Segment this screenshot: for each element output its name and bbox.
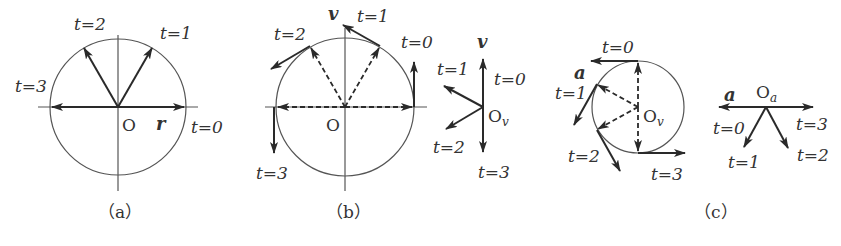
- vector-symbol-a: a: [574, 62, 586, 83]
- label-t0: t=0: [602, 37, 634, 57]
- label-t1: t=1: [437, 59, 469, 79]
- label-t0: t=0: [713, 118, 745, 138]
- origin-ov: Ov: [643, 106, 664, 129]
- origin-ov: Ov: [488, 106, 509, 129]
- origin-oa: Oa: [756, 82, 777, 105]
- origin-label: O: [122, 115, 136, 135]
- panel-a: t=2 t=1 t=3 t=0 O r （a）: [15, 14, 223, 222]
- caption-a: （a）: [98, 202, 142, 222]
- hodograph-figure: t=2 t=1 t=3 t=0 O r （a） v t=1 t=2 t=0 t=…: [0, 0, 841, 246]
- label-t2: t=2: [797, 145, 829, 165]
- label-t2: t=2: [433, 137, 465, 157]
- label-t0: t=0: [191, 117, 223, 137]
- label-t3: t=3: [256, 163, 288, 183]
- origin-label: O: [326, 115, 340, 135]
- vector-symbol-v: v: [477, 31, 488, 52]
- label-t3: t=3: [796, 114, 828, 134]
- panel-c: t=0 a t=1 t=2 t=3 Ov a Oa t=0 t=3 t=1 t=…: [555, 37, 829, 222]
- label-t1: t=1: [160, 23, 192, 43]
- label-t2: t=2: [568, 146, 600, 166]
- label-t2: t=2: [274, 24, 306, 44]
- label-t1: t=1: [555, 83, 587, 103]
- accel-vector-t2: [597, 130, 620, 171]
- hodograph-v-t2: [446, 107, 483, 129]
- label-t1: t=1: [728, 152, 760, 172]
- dashed-v-t2: [598, 107, 638, 129]
- label-t3: t=3: [478, 162, 510, 182]
- panel-b: v t=1 t=2 t=0 t=3 O v t=1 t=0 t=2 t=3 Ov…: [256, 3, 526, 222]
- dashed-radius-t1: [345, 48, 379, 107]
- caption-c: （c）: [694, 202, 738, 222]
- label-t0: t=0: [401, 32, 433, 52]
- velocity-hodograph: v t=1 t=0 t=2 t=3 Ov: [433, 31, 526, 182]
- velocity-vector-t1: [343, 25, 380, 46]
- vector-symbol-r: r: [156, 113, 167, 134]
- label-t2: t=2: [74, 14, 106, 34]
- label-t1: t=1: [357, 6, 389, 26]
- dashed-radius-t2: [311, 48, 345, 107]
- caption-b: （b）: [326, 202, 371, 222]
- label-t0: t=0: [494, 69, 526, 89]
- vector-symbol-a: a: [724, 84, 736, 105]
- position-vector-t2: [84, 48, 118, 107]
- dashed-v-t1: [598, 85, 638, 107]
- position-vector-t1: [118, 48, 152, 107]
- vector-symbol-v: v: [328, 3, 339, 24]
- label-t3: t=3: [15, 76, 47, 96]
- acceleration-hodograph: a Oa t=0 t=3 t=1 t=2: [713, 82, 829, 172]
- label-t3: t=3: [651, 164, 683, 184]
- hodograph-a-t2: [766, 107, 788, 148]
- hodograph-v-t1: [444, 86, 483, 107]
- hodograph-a-t1: [744, 107, 766, 147]
